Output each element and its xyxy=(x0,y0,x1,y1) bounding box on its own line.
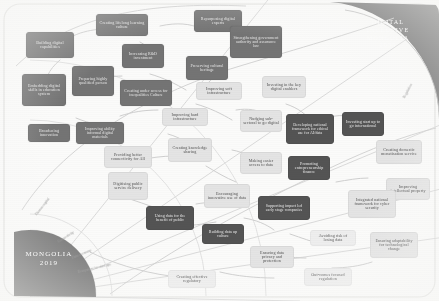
node-label: Creating domestic monetisation service xyxy=(379,148,419,156)
node-ensuring-data-privacy-and-protection[interactable]: Ensuring data privacy and protection xyxy=(250,246,294,268)
node-label: Preserving cultural heritage xyxy=(189,64,225,72)
destination-line4: 2035 xyxy=(345,41,431,49)
node-digitising-public-service-delivery[interactable]: Digitising public service delivery xyxy=(108,172,148,200)
node-label: Embedding digital skills in education sy… xyxy=(25,84,63,97)
node-label: Building data up culture xyxy=(205,230,241,238)
node-label: Promoting entrepreneurship finance xyxy=(291,162,327,174)
node-label: Using data for the benefit of public xyxy=(149,214,191,222)
node-label: Preparing highly qualified person xyxy=(75,77,111,85)
destination-line2: INCLUSIVE xyxy=(345,26,431,34)
node-label: Improving ability informal digital mater… xyxy=(79,127,121,139)
node-ensuring-adaptability-for-technological-change[interactable]: Ensuring adaptability for technological … xyxy=(370,232,418,258)
node-encouraging-innovative-use-of-data[interactable]: Encouraging innovative use of data xyxy=(204,184,250,208)
node-building-data-up-culture[interactable]: Building data up culture xyxy=(202,224,244,244)
node-label: Making easier access to data xyxy=(243,159,279,167)
node-strengthening-government-authority[interactable]: Strengthening government authority and a… xyxy=(230,26,282,58)
node-label: Investing in the key digital enablers xyxy=(265,83,303,91)
node-label: Increasing R&D investment xyxy=(125,52,161,60)
origin-line2: 2019 xyxy=(10,259,88,268)
node-label: Strengthening government authority and a… xyxy=(233,36,279,48)
node-label: Digitising public service delivery xyxy=(111,182,145,190)
node-label: Investing start up to go international xyxy=(345,120,381,128)
node-label: Integrated national framework for cyber … xyxy=(351,198,393,210)
destination-line3: MONGOLIA xyxy=(345,34,431,42)
node-label: Creating effective regulatory xyxy=(171,275,213,283)
node-label: Creating lifelong learning culture xyxy=(99,21,145,29)
node-using-data-for-benefit-of-public[interactable]: Using data for the benefit of public xyxy=(146,206,194,230)
node-out-comes-focused-regulation[interactable]: Out-comes focused regulation xyxy=(304,268,352,286)
node-creating-domestic-monetisation-service[interactable]: Creating domestic monetisation service xyxy=(376,140,422,164)
node-label: Improving soft infrastructure xyxy=(199,87,239,95)
node-improving-soft-infrastructure[interactable]: Improving soft infrastructure xyxy=(196,82,242,100)
node-avoiding-risk-of-losing-data[interactable]: Avoiding risk of losing data xyxy=(310,230,356,246)
destination-line1: DIGITAL xyxy=(345,18,431,26)
node-label: Creating knowledge sharing xyxy=(171,146,209,154)
node-label: Ensuring data privacy and protection xyxy=(253,251,291,264)
node-providing-better-connectivity-for-all[interactable]: Providing better connectivity for All xyxy=(104,146,152,168)
node-making-easier-access-to-data[interactable]: Making easier access to data xyxy=(240,152,282,174)
node-building-digital-capabilities[interactable]: Building digital capabilities xyxy=(26,32,74,58)
node-label: Out-comes focused regulation xyxy=(307,273,349,281)
node-label: Avoiding risk of losing data xyxy=(313,234,353,242)
node-investing-key-digital-enablers[interactable]: Investing in the key digital enablers xyxy=(262,76,306,98)
node-creating-knowledge-sharing[interactable]: Creating knowledge sharing xyxy=(168,138,212,162)
node-label: Improving hard infrastructure xyxy=(165,113,205,121)
node-broadening-innovation[interactable]: Broadening innovation xyxy=(28,124,70,142)
destination-label: DIGITAL INCLUSIVE MONGOLIA 2035 xyxy=(345,18,431,49)
node-label: Supporting impact led early stage compan… xyxy=(261,204,307,212)
node-integrated-national-framework-cyber-security[interactable]: Integrated national framework for cyber … xyxy=(348,190,396,218)
node-promoting-entrepreneurship-finance[interactable]: Promoting entrepreneurship finance xyxy=(288,156,330,180)
node-label: Ensuring adaptability for technological … xyxy=(373,239,415,252)
origin-label: MONGOLIA 2019 xyxy=(10,250,88,268)
node-preserving-cultural-heritage[interactable]: Preserving cultural heritage xyxy=(186,56,228,80)
node-label: Nudging sub-sectoral to go digital xyxy=(243,117,279,125)
node-improving-ability-informal-digital-materials[interactable]: Improving ability informal digital mater… xyxy=(76,122,124,144)
node-increasing-rd-investment[interactable]: Increasing R&D investment xyxy=(122,44,164,68)
node-embedding-digital-skills[interactable]: Embedding digital skills in education sy… xyxy=(22,74,66,106)
node-developing-national-framework-ethical-ai[interactable]: Developing national framework for ethica… xyxy=(286,114,334,144)
node-investing-start-up-international[interactable]: Investing start up to go international xyxy=(342,112,384,136)
node-label: Broadening innovation xyxy=(31,129,67,137)
node-creating-lifelong-learning-culture[interactable]: Creating lifelong learning culture xyxy=(96,14,148,36)
node-creating-effective-regulatory[interactable]: Creating effective regulatory xyxy=(168,270,216,288)
node-nudging-sub-sectoral-to-go-digital[interactable]: Nudging sub-sectoral to go digital xyxy=(240,110,282,132)
node-label: Repurposing digital experts xyxy=(197,17,239,25)
node-label: Building digital capabilities xyxy=(29,41,71,49)
node-supporting-impact-led-early-stage-companies[interactable]: Supporting impact led early stage compan… xyxy=(258,196,310,220)
node-creating-under-access-inequalities-culture[interactable]: Creating under access for inequalities C… xyxy=(120,80,172,106)
node-label: Creating under access for inequalities C… xyxy=(123,89,169,97)
node-improving-hard-infrastructure[interactable]: Improving hard infrastructure xyxy=(162,108,208,126)
node-label: Providing better connectivity for All xyxy=(107,153,149,161)
node-label: Encouraging innovative use of data xyxy=(207,192,247,200)
roadmap-diagram: DIGITAL INCLUSIVE MONGOLIA 2035 MONGOLIA… xyxy=(0,0,439,301)
node-preparing-highly-qualified-person[interactable]: Preparing highly qualified person xyxy=(72,66,114,96)
node-label: Developing national framework for ethica… xyxy=(289,123,331,135)
